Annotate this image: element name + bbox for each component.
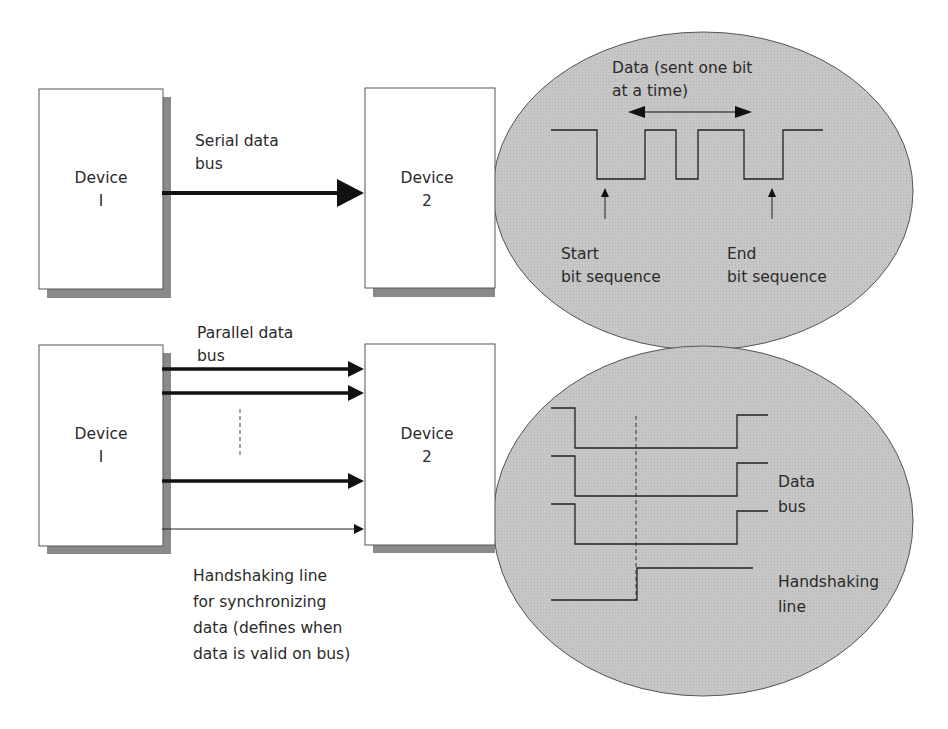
parallel-device2-label: Device 2 <box>365 423 489 469</box>
label-line: Data <box>778 470 815 495</box>
data-bus-callout-label: Data bus <box>778 470 815 520</box>
device-name: Device <box>365 423 489 446</box>
device-number: I <box>39 190 163 213</box>
device-number: 2 <box>365 190 489 213</box>
device-name: Device <box>39 167 163 190</box>
label-line: bus <box>195 153 279 176</box>
serial-device2-label: Device 2 <box>365 167 489 213</box>
label-line: line <box>778 595 879 620</box>
label-line: data is valid on bus) <box>193 641 350 667</box>
label-line: Data (sent one bit <box>612 57 752 80</box>
device-name: Device <box>365 167 489 190</box>
device-number: I <box>39 446 163 469</box>
label-line: at a time) <box>612 80 752 103</box>
label-line: Handshaking line <box>193 563 350 589</box>
label-line: Start <box>561 243 661 266</box>
handshake-description: Handshaking line for synchronizing data … <box>193 563 350 667</box>
parallel-bus-arrows <box>162 361 364 489</box>
label-line: bit sequence <box>561 266 661 289</box>
parallel-callout-ellipse <box>493 346 913 696</box>
label-line: bus <box>778 495 815 520</box>
handshake-line-arrow <box>162 524 364 534</box>
serial-bus-arrow <box>162 179 364 207</box>
serial-device1-label: Device I <box>39 167 163 213</box>
label-line: Serial data <box>195 130 279 153</box>
label-line: data (defines when <box>193 615 350 641</box>
parallel-device1-label: Device I <box>39 423 163 469</box>
label-line: Handshaking <box>778 570 879 595</box>
parallel-bus-label: Parallel data bus <box>197 322 293 368</box>
label-line: for synchronizing <box>193 589 350 615</box>
label-line: bit sequence <box>727 266 827 289</box>
label-line: Parallel data <box>197 322 293 345</box>
end-bit-label: End bit sequence <box>727 243 827 289</box>
device-number: 2 <box>365 446 489 469</box>
start-bit-label: Start bit sequence <box>561 243 661 289</box>
device-name: Device <box>39 423 163 446</box>
label-line: bus <box>197 345 293 368</box>
serial-bus-label: Serial data bus <box>195 130 279 176</box>
data-sent-label: Data (sent one bit at a time) <box>612 57 752 103</box>
label-line: End <box>727 243 827 266</box>
handshaking-callout-label: Handshaking line <box>778 570 879 620</box>
